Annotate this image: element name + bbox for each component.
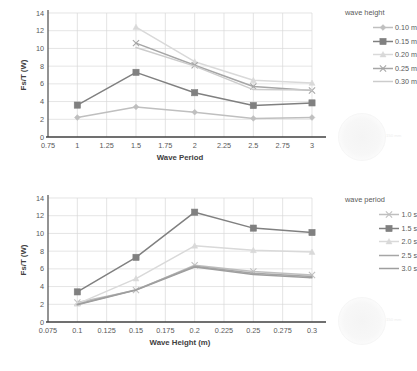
plot-wave-height: 024681012140.0750.10.1250.150.1750.20.22… bbox=[0, 185, 340, 371]
svg-text:2: 2 bbox=[40, 115, 44, 124]
svg-text:1: 1 bbox=[75, 141, 79, 150]
svg-text:0.075: 0.075 bbox=[39, 326, 57, 335]
legend-item-label: 3.0 s bbox=[401, 264, 417, 273]
svg-text:Wave Height (m): Wave Height (m) bbox=[150, 338, 211, 347]
svg-text:0.3: 0.3 bbox=[307, 326, 317, 335]
svg-text:10: 10 bbox=[36, 229, 44, 238]
legend-item-label: 0.15 m bbox=[395, 37, 417, 46]
legend-title: wave period bbox=[345, 195, 417, 204]
svg-text:1.5: 1.5 bbox=[131, 141, 141, 150]
legend-item[interactable]: 0.20 m bbox=[345, 48, 417, 62]
legend-item[interactable]: 0.15 m bbox=[345, 35, 417, 49]
svg-text:Fs/T (W): Fs/T (W) bbox=[19, 59, 28, 90]
svg-text:14: 14 bbox=[36, 9, 44, 18]
legend-item-label: 0.20 m bbox=[395, 50, 417, 59]
svg-text:0.25: 0.25 bbox=[246, 326, 260, 335]
legend-swatch-icon bbox=[373, 23, 393, 32]
legend-item[interactable]: 2.0 s bbox=[345, 235, 417, 249]
legend-wave-height: wave height 0.10 m0.15 m0.20 m0.25 m0.30… bbox=[345, 8, 417, 89]
svg-text:14: 14 bbox=[36, 194, 44, 203]
plot-wave-period: 024681012140.7511.251.51.7522.252.52.753… bbox=[0, 0, 340, 185]
svg-text:12: 12 bbox=[36, 211, 44, 220]
legend-item-label: 0.25 m bbox=[395, 64, 417, 73]
legend-swatch-icon bbox=[373, 77, 393, 86]
legend-items: 0.10 m0.15 m0.20 m0.25 m0.30 m bbox=[345, 21, 417, 89]
legend-swatch-icon bbox=[379, 264, 399, 273]
svg-text:1.25: 1.25 bbox=[100, 141, 114, 150]
svg-text:3: 3 bbox=[310, 141, 314, 150]
legend-item[interactable]: 0.10 m bbox=[345, 21, 417, 35]
legend-items: 1.0 s1.5 s2.0 s2.5 s3.0 s bbox=[345, 208, 417, 276]
svg-text:0.15: 0.15 bbox=[129, 326, 143, 335]
legend-item[interactable]: 1.0 s bbox=[345, 208, 417, 222]
svg-text:0.125: 0.125 bbox=[98, 326, 116, 335]
svg-text:0.75: 0.75 bbox=[41, 141, 55, 150]
svg-text:6: 6 bbox=[40, 264, 44, 273]
svg-text:4: 4 bbox=[40, 282, 44, 291]
chart-canvas-wave-period: 024681012140.7511.251.51.7522.252.52.753… bbox=[0, 0, 340, 185]
svg-text:0.1: 0.1 bbox=[72, 326, 82, 335]
legend-wave-period: wave period 1.0 s1.5 s2.0 s2.5 s3.0 s bbox=[345, 195, 417, 276]
legend-swatch-icon bbox=[379, 224, 399, 233]
legend-swatch-icon bbox=[379, 251, 399, 260]
svg-text:6: 6 bbox=[40, 79, 44, 88]
watermark-circle bbox=[338, 113, 386, 161]
chart-canvas-wave-height: 024681012140.0750.10.1250.150.1750.20.22… bbox=[0, 185, 340, 371]
legend-item-label: 2.5 s bbox=[401, 251, 417, 260]
legend-item[interactable]: 0.30 m bbox=[345, 75, 417, 89]
svg-text:0.275: 0.275 bbox=[274, 326, 292, 335]
svg-text:4: 4 bbox=[40, 97, 44, 106]
legend-swatch-icon bbox=[379, 237, 399, 246]
svg-text:1.75: 1.75 bbox=[158, 141, 172, 150]
legend-item[interactable]: 1.5 s bbox=[345, 222, 417, 236]
legend-item-label: 0.10 m bbox=[395, 23, 417, 32]
legend-swatch-icon bbox=[373, 37, 393, 46]
figure-wave-period: 024681012140.7511.251.51.7522.252.52.753… bbox=[0, 0, 417, 185]
svg-text:0.175: 0.175 bbox=[156, 326, 174, 335]
svg-text:8: 8 bbox=[40, 62, 44, 71]
legend-item-label: 0.30 m bbox=[395, 77, 417, 86]
legend-item-label: 1.0 s bbox=[401, 210, 417, 219]
svg-text:Fs/T (W): Fs/T (W) bbox=[19, 244, 28, 275]
svg-text:Wave Period: Wave Period bbox=[157, 153, 204, 162]
svg-text:2: 2 bbox=[193, 141, 197, 150]
figure-wave-height: 024681012140.0750.10.1250.150.1750.20.22… bbox=[0, 185, 417, 371]
svg-text:2.25: 2.25 bbox=[217, 141, 231, 150]
svg-text:10: 10 bbox=[36, 44, 44, 53]
svg-text:0.225: 0.225 bbox=[215, 326, 233, 335]
legend-item[interactable]: 2.5 s bbox=[345, 249, 417, 263]
watermark-circle bbox=[338, 297, 386, 345]
svg-text:12: 12 bbox=[36, 26, 44, 35]
legend-item-label: 2.0 s bbox=[401, 237, 417, 246]
legend-item-label: 1.5 s bbox=[401, 224, 417, 233]
legend-title: wave height bbox=[345, 8, 417, 17]
svg-text:2.5: 2.5 bbox=[248, 141, 258, 150]
legend-swatch-icon bbox=[373, 64, 393, 73]
legend-item[interactable]: 3.0 s bbox=[345, 262, 417, 276]
watermark-label: 150 mm bbox=[386, 133, 401, 138]
watermark-label: 150 mm bbox=[386, 317, 401, 322]
svg-text:2: 2 bbox=[40, 300, 44, 309]
legend-swatch-icon bbox=[379, 210, 399, 219]
legend-swatch-icon bbox=[373, 50, 393, 59]
svg-text:2.75: 2.75 bbox=[276, 141, 290, 150]
svg-text:8: 8 bbox=[40, 247, 44, 256]
legend-item[interactable]: 0.25 m bbox=[345, 62, 417, 76]
svg-text:0.2: 0.2 bbox=[190, 326, 200, 335]
